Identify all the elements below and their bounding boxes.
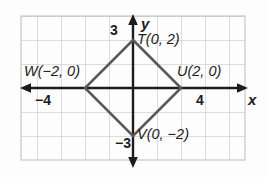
y-axis-label: y <box>141 16 149 31</box>
y-tick-label-neg3: −3 <box>115 136 131 150</box>
point-label-u: U(2, 0) <box>177 64 221 79</box>
coordinate-plane-figure: T(0, 2) U(2, 0) V(0, −2) W(−2, 0) 3 −3 4… <box>0 0 267 177</box>
y-tick-label-3: 3 <box>110 23 118 37</box>
y-axis-arrow-down <box>128 157 138 168</box>
point-label-v: V(0, −2) <box>137 127 189 142</box>
point-label-t: T(0, 2) <box>137 32 180 47</box>
point-label-w: W(−2, 0) <box>24 64 80 79</box>
plot-svg <box>0 0 267 177</box>
x-tick-label-neg4: −4 <box>35 93 51 107</box>
x-tick-label-4: 4 <box>196 93 204 107</box>
x-axis-label: x <box>248 92 256 107</box>
